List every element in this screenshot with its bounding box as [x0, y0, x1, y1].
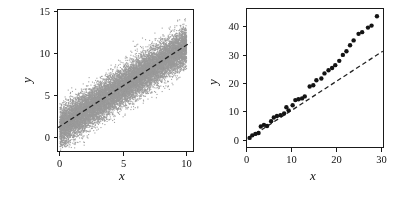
- data-point: [265, 124, 269, 128]
- axes-layer: 05100510150102030010203040: [0, 0, 402, 197]
- data-point: [341, 53, 345, 57]
- data-point: [369, 23, 373, 27]
- x-tick-label: 0: [57, 158, 62, 169]
- y-tick-label: 10: [40, 48, 51, 59]
- data-point: [333, 63, 337, 67]
- x-tick-label: 20: [331, 154, 342, 165]
- y-tick-label: 5: [45, 90, 50, 101]
- fit-line: [58, 43, 191, 128]
- data-point: [290, 103, 294, 107]
- y-tick-label: 40: [229, 21, 240, 32]
- reference-line: [249, 51, 383, 138]
- data-point: [256, 131, 260, 135]
- y-tick-label: 20: [229, 78, 240, 89]
- y-tick-label: 0: [45, 132, 50, 143]
- x-tick-label: 30: [376, 154, 387, 165]
- plot-frame: [58, 10, 194, 152]
- data-point: [348, 43, 352, 47]
- x-tick-label: 10: [181, 158, 192, 169]
- two-panel-scatter-figure: 05100510150102030010203040 x y x y: [0, 0, 402, 197]
- data-point: [282, 111, 286, 115]
- left-panel-x-axis-label: x: [115, 169, 129, 183]
- data-point: [286, 108, 290, 112]
- data-point: [303, 94, 307, 98]
- left-panel-y-axis-label: y: [20, 73, 34, 87]
- data-point: [351, 38, 355, 42]
- right-panel-x-axis-label: x: [306, 169, 320, 183]
- data-point: [344, 49, 348, 53]
- y-tick-label: 10: [229, 106, 240, 117]
- data-point: [360, 30, 364, 34]
- data-point: [319, 76, 323, 80]
- y-tick-label: 15: [40, 6, 51, 17]
- x-tick-label: 0: [244, 154, 249, 165]
- y-tick-label: 30: [229, 50, 240, 61]
- data-point: [375, 14, 379, 18]
- data-point: [311, 83, 315, 87]
- right-panel-y-axis-label: y: [206, 75, 220, 89]
- y-tick-label: 0: [234, 135, 239, 146]
- data-point: [314, 78, 318, 82]
- data-point: [269, 119, 273, 123]
- data-point: [322, 71, 326, 75]
- data-point: [337, 59, 341, 63]
- x-tick-label: 10: [286, 154, 297, 165]
